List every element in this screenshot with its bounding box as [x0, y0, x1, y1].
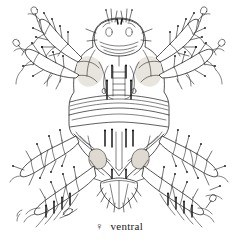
figure-container: .ln{fill:none;stroke:#1a1a1a;stroke-widt… [0, 0, 238, 251]
figure-caption: ♀ventral [0, 219, 238, 233]
female-symbol: ♀ [95, 220, 104, 232]
caption-label: ventral [110, 220, 143, 232]
mite-ventral-illustration: .ln{fill:none;stroke:#1a1a1a;stroke-widt… [0, 0, 238, 251]
